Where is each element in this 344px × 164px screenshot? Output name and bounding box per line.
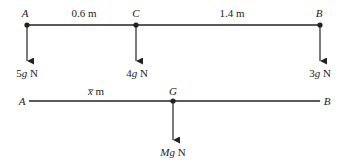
force-g-label: Mg N [159,146,185,158]
distance-xbar-label: x̅ m [87,85,105,97]
distance-ac-label: 0.6 m [71,7,97,19]
force-b-label: 3g N [309,67,331,79]
top-beam: A C B 0.6 m 1.4 m 5g N 4g N 3g N [16,7,331,79]
point-a-label: A [21,7,29,19]
force-c-label: 4g N [126,67,148,79]
beam-diagram: A C B 0.6 m 1.4 m 5g N 4g N 3g N A B G x… [0,0,344,164]
point-b-label: B [316,7,323,19]
bottom-b-label: B [324,95,331,107]
bottom-beam: A B G x̅ m Mg N [18,85,331,158]
force-a-label: 5g N [16,67,38,79]
bottom-a-label: A [18,95,26,107]
centre-of-mass-label: G [169,85,177,97]
distance-cb-label: 1.4 m [219,7,245,19]
point-c-label: C [132,7,140,19]
